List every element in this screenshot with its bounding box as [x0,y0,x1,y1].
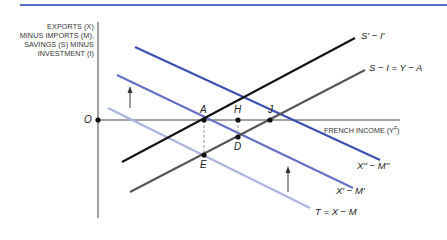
y-axis-label-line-2: MINUS IMPORTS (M), [0,31,94,40]
x-axis-label: FRENCH INCOME (YF) [324,125,399,135]
label-s-prime-i-prime: S' − I' [361,30,384,41]
point-label-h: H [234,104,241,115]
label-t: T = X − M [315,206,357,217]
shift-arrow-left [128,86,133,108]
curve-t [108,108,310,208]
point-label-e: E [200,159,207,170]
point-h [235,117,240,122]
shift-arrow-right [286,166,291,192]
point-a [201,117,206,122]
x-axis-label-close: ) [397,126,399,135]
y-axis-label: EXPORTS (X) MINUS IMPORTS (M), SAVINGS (… [0,22,94,58]
label-x2-m2: X'' − M'' [357,160,389,171]
point-label-j: J [268,104,273,115]
y-axis-label-line-1: EXPORTS (X) [0,22,94,31]
label-s-minus-i: S − I = Y − A [369,62,422,73]
origin-label: O [84,114,92,125]
label-x1-m1: X' − M' [336,185,365,196]
point-d [235,134,240,139]
point-e [201,152,206,157]
point-j [267,117,272,122]
y-axis-label-line-4: INVESTMENT (I) [0,49,94,58]
point-label-d: D [234,141,241,152]
y-axis-label-line-3: SAVINGS (S) MINUS [0,40,94,49]
x-axis-label-text: FRENCH INCOME (Y [324,126,394,135]
point-label-a: A [200,104,207,115]
point-origin [95,117,100,122]
